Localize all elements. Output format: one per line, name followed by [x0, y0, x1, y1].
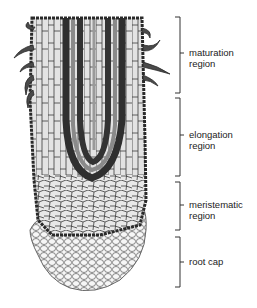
- root-hairs-right: [142, 28, 170, 86]
- label-meristematic-region: meristematic region: [189, 199, 243, 221]
- label-line2: region: [189, 58, 234, 69]
- label-line1: root cap: [189, 256, 223, 267]
- label-line1: maturation: [189, 47, 234, 58]
- bracket-root-cap: [175, 237, 184, 287]
- label-line1: elongation: [189, 129, 233, 140]
- label-maturation-region: maturation region: [189, 47, 234, 69]
- label-line2: region: [189, 140, 233, 151]
- label-elongation-region: elongation region: [189, 129, 233, 151]
- label-line2: region: [189, 210, 243, 221]
- region-brackets: [175, 17, 184, 287]
- root-body: [28, 16, 150, 240]
- label-line1: meristematic: [189, 199, 243, 210]
- bracket-meristematic: [175, 182, 184, 230]
- bracket-elongation: [175, 98, 184, 176]
- bracket-maturation: [175, 17, 184, 93]
- label-root-cap: root cap: [189, 256, 223, 267]
